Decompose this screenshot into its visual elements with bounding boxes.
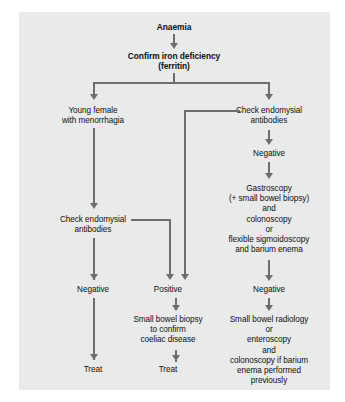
flowchart-panel: Anaemia Confirm iron deficiency (ferriti… bbox=[19, 12, 330, 390]
arrow-positive-to-biopsy bbox=[172, 305, 180, 311]
arrow-anaemia-to-confirm bbox=[170, 43, 178, 49]
arrow-negative-left-to-treat bbox=[90, 354, 98, 360]
node-gastroscopy-block: Gastroscopy (+ small bowel biopsy) and c… bbox=[209, 184, 329, 255]
node-negative-right-2: Negative bbox=[229, 285, 309, 295]
connector-negative-left-to-treat bbox=[93, 298, 95, 360]
node-young-female: Young female with menorrhagia bbox=[43, 106, 143, 126]
arrow-check-left-to-negative bbox=[90, 274, 98, 280]
node-check-endomysial-left: Check endomysial antibodies bbox=[43, 215, 143, 235]
connector-endomysial-right-branch-h bbox=[184, 110, 240, 112]
connector-young-female-to-check-left bbox=[93, 128, 95, 206]
connector-check-left-branch-h bbox=[131, 219, 171, 221]
connector-check-left-branch-v bbox=[169, 219, 171, 278]
node-small-bowel-radiology: Small bowel radiology or enteroscopy and… bbox=[206, 315, 332, 386]
connector-split-bar bbox=[93, 82, 270, 84]
arrow-endomysial-right-to-positive bbox=[181, 274, 189, 280]
flowchart-root: Anaemia Confirm iron deficiency (ferriti… bbox=[0, 0, 345, 402]
node-confirm-iron-deficiency: Confirm iron deficiency (ferritin) bbox=[94, 51, 254, 71]
node-small-bowel-biopsy: Small bowel biopsy to confirm coeliac di… bbox=[122, 315, 214, 346]
arrow-negative-to-gastroscopy bbox=[265, 173, 273, 179]
arrow-check-left-to-positive bbox=[166, 274, 174, 280]
node-treat-middle: Treat bbox=[138, 365, 198, 375]
arrow-to-young-female bbox=[90, 94, 98, 100]
arrow-young-female-to-check-left bbox=[90, 203, 98, 209]
arrow-gastroscopy-to-negative2 bbox=[265, 275, 273, 281]
node-negative-left: Negative bbox=[53, 285, 133, 295]
connector-endomysial-right-branch-v bbox=[184, 110, 186, 278]
node-positive-middle: Positive bbox=[128, 285, 208, 295]
arrow-to-check-endomysial-right bbox=[265, 94, 273, 100]
node-negative-right-1: Negative bbox=[229, 149, 309, 159]
node-anaemia: Anaemia bbox=[119, 22, 229, 32]
arrow-check-right-to-negative bbox=[265, 139, 273, 145]
node-treat-left: Treat bbox=[63, 365, 123, 375]
arrow-negative2-to-radiology bbox=[265, 305, 273, 311]
arrow-biopsy-to-treat bbox=[172, 355, 180, 361]
